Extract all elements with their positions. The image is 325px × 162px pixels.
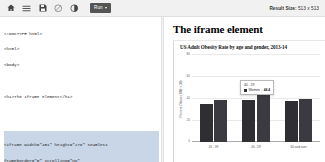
code-line-blank — [4, 110, 159, 115]
code-line: frameborder="0" scrolling="no" — [4, 158, 159, 162]
y-tick-label: 0 — [188, 139, 190, 143]
menu-icon[interactable] — [22, 4, 31, 13]
chart-plot-area: 80 60 40 20 0 — [192, 54, 320, 142]
bar-women[interactable] — [299, 99, 312, 142]
y-tick-label: 20 — [187, 118, 190, 122]
run-button-label: Run — [94, 3, 103, 13]
bar-group: 20 - 39 — [200, 54, 228, 142]
bar-men[interactable] — [200, 104, 213, 142]
run-button[interactable]: Run — [90, 3, 111, 13]
code-line-heading: <h1>The iframe element</h1> — [4, 94, 159, 99]
y-tick-label: 80 — [187, 52, 190, 56]
bar-women[interactable] — [214, 100, 227, 142]
result-size-value: 513 x 513 — [298, 6, 319, 11]
code-line: <!DOCTYPE html> — [4, 31, 159, 36]
chart-title: US Adult Obesity Rate by age and gender,… — [180, 44, 287, 50]
result-size-label: Result Size: — [269, 6, 296, 11]
chart-tooltip: 40 - 59 Women: 44.4 — [240, 80, 274, 95]
bar-men[interactable] — [242, 100, 255, 142]
embedded-iframe-chart[interactable]: US Adult Obesity Rate by age and gender,… — [173, 40, 325, 162]
editor-split-container: <!DOCTYPE html> <html> <body> <h1>The if… — [0, 17, 325, 162]
result-pane: The iframe element US Adult Obesity Rate… — [164, 17, 325, 162]
tryit-editor-window: Run Result Size: 513 x 513 <!DOCTYPE htm… — [0, 0, 325, 162]
result-size-indicator: Result Size: 513 x 513 — [269, 6, 325, 11]
chart-y-axis-label: Percent Obese (BMI > 30) — [179, 80, 183, 117]
code-line: <html> — [4, 46, 159, 51]
bar-men[interactable] — [285, 101, 298, 142]
x-tick-label: 20 - 39 — [209, 145, 219, 149]
code-selection-iframe[interactable]: <iframe width="451" height="278" seamles… — [4, 131, 159, 162]
y-tick-label: 60 — [187, 74, 190, 78]
code-text[interactable]: <!DOCTYPE html> <html> <body> <h1>The if… — [4, 20, 159, 162]
tooltip-series-name: Women — [249, 88, 260, 93]
home-icon[interactable] — [6, 4, 15, 13]
code-line: <iframe width="451" height="278" seamles… — [4, 142, 159, 147]
series-color-swatch-icon — [244, 89, 247, 92]
chart-bar-groups: 20 - 39 40 - 59 60 and over — [192, 54, 320, 142]
result-document: The iframe element US Adult Obesity Rate… — [164, 17, 325, 162]
chevron-down-icon — [105, 7, 107, 9]
toolbar-left-group: Run — [0, 3, 111, 13]
x-tick-label: 60 and over — [290, 145, 306, 149]
x-tick-label: 40 - 59 — [251, 145, 261, 149]
bar-group: 60 and over — [285, 54, 313, 142]
bar-women[interactable] — [257, 93, 270, 142]
tooltip-value: 44.4 — [264, 88, 270, 93]
contrast-icon[interactable] — [70, 4, 79, 13]
code-line: <body> — [4, 62, 159, 67]
y-tick-label: 40 — [187, 96, 190, 100]
save-icon[interactable] — [38, 4, 47, 13]
toolbar: Run Result Size: 513 x 513 — [0, 0, 325, 17]
code-line-blank — [4, 78, 159, 83]
tooltip-separator: : — [261, 88, 262, 93]
page-title: The iframe element — [173, 23, 263, 35]
tooltip-value-row: Women: 44.4 — [244, 88, 270, 93]
reset-icon[interactable] — [54, 4, 63, 13]
code-editor-pane[interactable]: <!DOCTYPE html> <html> <body> <h1>The if… — [0, 17, 161, 162]
bar-group: 40 - 59 — [242, 54, 270, 142]
